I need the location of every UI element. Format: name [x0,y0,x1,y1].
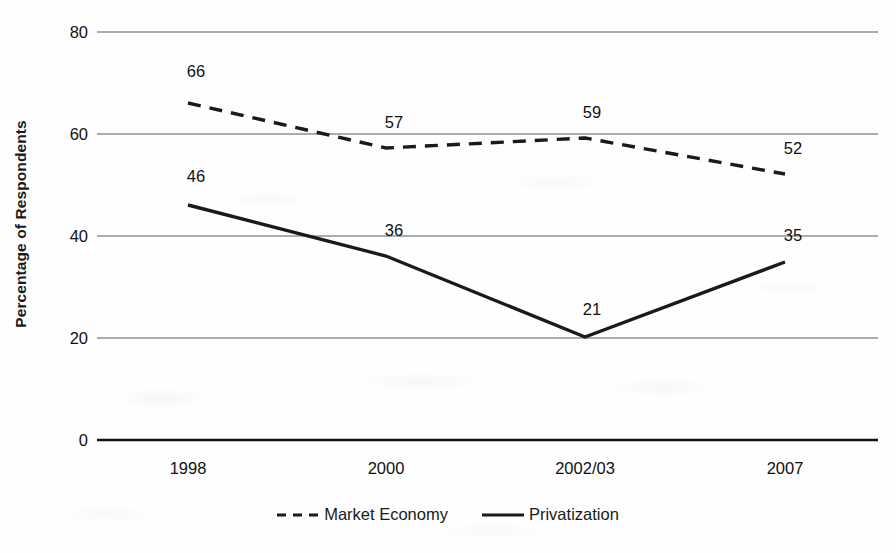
data-label-privatization-2002-03: 21 [583,300,601,319]
line-chart: Percentage of Respondents 0 20 40 60 80 … [0,0,896,553]
data-label-market-economy-2007: 52 [784,139,802,158]
legend-label-market-economy: Market Economy [324,505,448,524]
x-tick-2007: 2007 [767,459,804,478]
series-market-economy-line [188,103,785,174]
solid-line-icon [482,509,524,521]
data-label-market-economy-1998: 66 [187,62,205,81]
plot-area [0,0,896,553]
legend-item-privatization: Privatization [482,505,619,524]
data-label-market-economy-2002-03: 59 [583,103,601,122]
x-tick-2002-03: 2002/03 [555,459,615,478]
series-privatization-line [188,205,785,337]
data-label-market-economy-2000: 57 [385,113,403,132]
data-label-privatization-2000: 36 [385,221,403,240]
x-tick-1998: 1998 [170,459,207,478]
legend-item-market-economy: Market Economy [277,505,448,524]
data-label-privatization-2007: 35 [784,226,802,245]
x-tick-2000: 2000 [368,459,405,478]
gridlines [97,32,878,338]
chart-legend: Market Economy Privatization [0,505,896,524]
legend-label-privatization: Privatization [529,505,619,524]
dashed-line-icon [277,509,319,521]
data-label-privatization-1998: 46 [187,167,205,186]
